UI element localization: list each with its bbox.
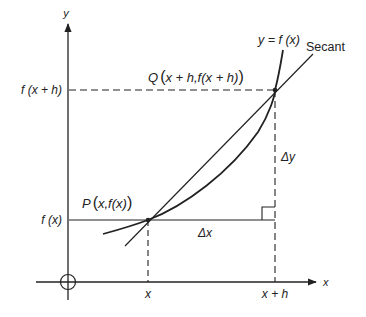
delta-y-label: Δy — [280, 150, 296, 164]
point-p-name: P — [82, 196, 91, 211]
point-p-label: P(x,f(x)) — [82, 194, 132, 211]
delta-x-label: Δx — [197, 226, 213, 240]
secant-label: Secant — [306, 40, 345, 54]
point-p — [146, 218, 151, 223]
point-q-label: Q(x + h,f(x + h)) — [148, 68, 244, 85]
point-p-close-paren: ) — [127, 194, 132, 211]
point-q-close-paren: ) — [238, 68, 243, 85]
y-tick-fxh: f (x + h) — [21, 83, 62, 97]
x-tick-x: x — [144, 287, 152, 301]
point-q-coords: x + h,f(x + h) — [164, 70, 238, 85]
y-axis-label: y — [62, 7, 70, 19]
point-q — [273, 88, 278, 93]
point-q-name: Q — [148, 70, 158, 85]
right-angle-marker — [262, 207, 275, 220]
x-tick-xh: x + h — [261, 287, 289, 301]
secant-diagram: y x y = f (x) Secant P(x,f(x)) Q(x + h,f… — [0, 0, 366, 317]
curve-label-text: y = f (x) — [257, 33, 300, 47]
point-p-coords: x,f(x) — [97, 196, 127, 211]
y-tick-fx: f (x) — [41, 213, 62, 227]
curve-label: y = f (x) — [257, 33, 300, 47]
x-axis-label: x — [322, 276, 329, 288]
